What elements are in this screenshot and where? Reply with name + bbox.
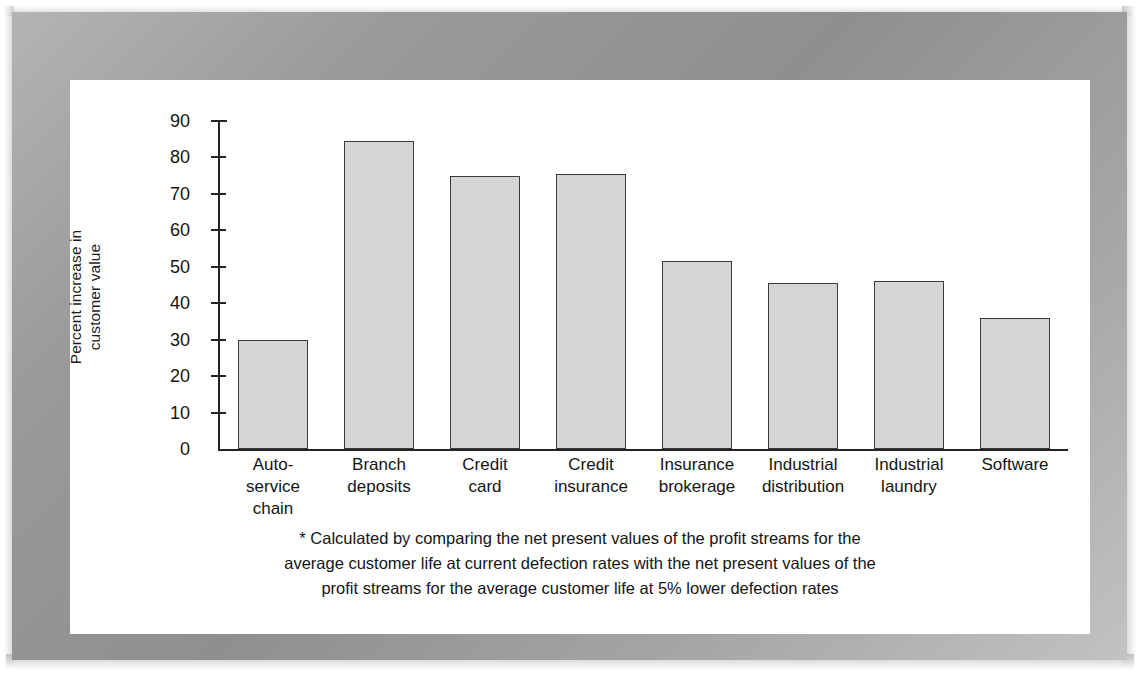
x-axis-tick-label: Software: [953, 454, 1077, 476]
x-axis-tick-label-line: chain: [211, 498, 335, 520]
x-axis-tick-labels: Auto-servicechainBranchdepositsCreditcar…: [220, 454, 1072, 520]
bar: [662, 261, 732, 449]
footnote-line-1: * Calculated by comparing the net presen…: [130, 526, 1030, 551]
y-axis-tick-label: 0: [156, 440, 190, 458]
y-axis-tick-label: 80: [156, 148, 190, 166]
x-axis-tick-label-line: laundry: [847, 476, 971, 498]
y-axis-title-line-1: Percent increase in: [66, 172, 85, 422]
x-axis-tick-label-line: Software: [953, 454, 1077, 476]
y-axis-tick-label: 60: [156, 221, 190, 239]
bar-series: [220, 80, 1068, 451]
chart-footnote: * Calculated by comparing the net presen…: [130, 526, 1030, 601]
bar: [980, 318, 1050, 449]
y-axis-tick-label: 20: [156, 367, 190, 385]
footnote-line-2: average customer life at current defecti…: [130, 551, 1030, 576]
chart-panel: Percent increase in customer value 90807…: [70, 80, 1090, 634]
y-axis-tick-label: 40: [156, 294, 190, 312]
bar: [450, 176, 520, 449]
y-axis-title: Percent increase in customer value: [66, 172, 126, 422]
y-axis-tick-label: 10: [156, 404, 190, 422]
bar: [556, 174, 626, 449]
y-axis-tick-label: 70: [156, 185, 190, 203]
y-axis-tick-label: 50: [156, 258, 190, 276]
bar: [344, 141, 414, 449]
footnote-line-3: profit streams for the average customer …: [130, 576, 1030, 601]
chart-frame: Percent increase in customer value 90807…: [12, 12, 1127, 660]
bar: [874, 281, 944, 449]
bar: [238, 340, 308, 449]
y-axis-tick-label: 30: [156, 331, 190, 349]
bar: [768, 283, 838, 449]
y-axis-tick-label: 90: [156, 112, 190, 130]
bar-chart: Percent increase in customer value 90807…: [70, 80, 1090, 634]
y-axis-title-line-2: customer value: [85, 172, 104, 422]
